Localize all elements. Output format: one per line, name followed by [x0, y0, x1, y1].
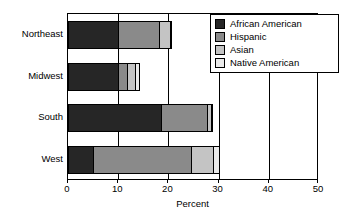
legend: African AmericanHispanicAsianNative Amer…	[210, 14, 339, 73]
segment-midwest-african-american	[68, 63, 119, 91]
category-label-west: West	[3, 154, 63, 164]
segment-south-african-american	[68, 104, 162, 132]
category-label-south: South	[3, 112, 63, 122]
legend-swatch-icon	[215, 45, 225, 55]
x-tick-label-30: 30	[212, 184, 223, 194]
x-tick-label-40: 40	[263, 184, 274, 194]
segment-west-asian	[191, 146, 214, 174]
bar-west	[68, 146, 219, 174]
x-tick-label-50: 50	[313, 184, 324, 194]
segment-west-native-american	[213, 146, 220, 174]
legend-item-asian: Asian	[215, 44, 334, 56]
segment-midwest-native-american	[135, 63, 140, 91]
bar-midwest	[68, 63, 139, 91]
segment-northeast-hispanic	[118, 21, 160, 49]
legend-label: Native American	[230, 58, 299, 68]
bar-northeast	[68, 21, 171, 49]
legend-item-hispanic: Hispanic	[215, 31, 334, 43]
legend-swatch-icon	[215, 58, 225, 68]
segment-northeast-native-american	[170, 21, 172, 49]
legend-swatch-icon	[215, 32, 225, 42]
segment-south-hispanic	[161, 104, 208, 132]
segment-west-hispanic	[93, 146, 192, 174]
segment-northeast-african-american	[68, 21, 119, 49]
category-axis-labels: NortheastMidwestSouthWest	[0, 0, 63, 218]
x-tick-label-10: 10	[112, 184, 123, 194]
legend-label: African American	[230, 19, 302, 29]
x-tick-label-20: 20	[162, 184, 173, 194]
category-label-midwest: Midwest	[3, 71, 63, 81]
category-label-northeast: Northeast	[3, 29, 63, 39]
legend-swatch-icon	[215, 19, 225, 29]
x-axis-title: Percent	[67, 199, 318, 209]
legend-item-native-american: Native American	[215, 57, 334, 69]
legend-item-african-american: African American	[215, 18, 334, 30]
x-tick-label-0: 0	[64, 184, 69, 194]
stacked-bar-chart: NortheastMidwestSouthWest 01020304050 Pe…	[0, 0, 341, 218]
segment-south-native-american	[211, 104, 214, 132]
bar-south	[68, 104, 212, 132]
legend-label: Asian	[230, 45, 254, 55]
legend-label: Hispanic	[230, 32, 266, 42]
x-axis: 01020304050	[67, 180, 318, 200]
segment-west-african-american	[68, 146, 94, 174]
